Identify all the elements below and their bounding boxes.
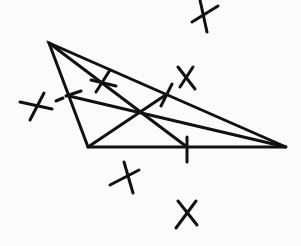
midpoint-tick-2 (56, 98, 63, 101)
arc-mark-lower-left (110, 162, 139, 193)
compass-arc-marks (20, 0, 218, 228)
arc-mark-bottom-stroke-1 (176, 201, 196, 228)
arc-mark-on-ac (91, 70, 116, 92)
triangle-diagram (0, 0, 301, 246)
arc-mark-lower-left-stroke-1 (110, 170, 139, 185)
arc-mark-left (20, 93, 52, 120)
arc-mark-bottom (176, 201, 197, 228)
arc-mark-upper-right (178, 67, 195, 89)
arc-mark-top (192, 0, 218, 32)
